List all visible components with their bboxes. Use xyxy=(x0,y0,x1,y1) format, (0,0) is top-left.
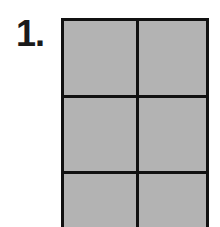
grid-cell-r3-c1 xyxy=(64,174,136,227)
grid-cell-r1-c1 xyxy=(64,21,136,95)
grid-vertical-divider xyxy=(136,21,139,227)
grid-cell-r1-c2 xyxy=(139,21,206,95)
grid-horizontal-divider-1 xyxy=(64,95,206,98)
grid-cell-r2-c1 xyxy=(64,98,136,171)
grid-cell-r2-c2 xyxy=(139,98,206,171)
figure-number-label: 1. xyxy=(16,14,44,54)
grid-cell-r3-c2 xyxy=(139,174,206,227)
grid-horizontal-divider-2 xyxy=(64,171,206,174)
shaded-grid xyxy=(61,18,209,227)
